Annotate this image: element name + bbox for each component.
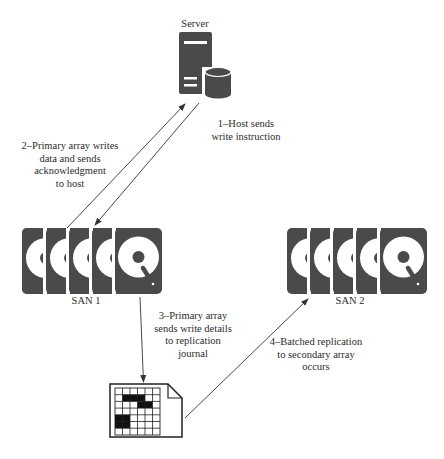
san1-label: SAN 1	[56, 295, 116, 306]
san1-disk-array-icon	[22, 226, 162, 296]
database-icon	[202, 67, 233, 99]
server-label: Server	[170, 18, 220, 29]
step-1-label: 1–Host sends write instruction	[196, 118, 296, 143]
journal-document-icon	[110, 384, 182, 437]
step-2-label: 2–Primary array writes data and sends ac…	[10, 140, 130, 190]
arrow-to-journal	[140, 297, 144, 382]
replication-diagram: Server SAN 1 SAN 2 1–Host sends write in…	[0, 0, 444, 459]
step-3-label: 3–Primary array sends write details to r…	[148, 310, 238, 360]
san2-disk-array-icon	[287, 226, 427, 296]
step-4-label: 4–Batched replication to secondary array…	[258, 336, 374, 374]
san2-label: SAN 2	[320, 295, 380, 306]
